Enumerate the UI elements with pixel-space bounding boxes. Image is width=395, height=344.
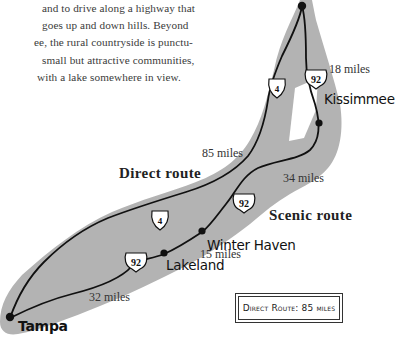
route-label-direct: Direct route — [119, 165, 201, 182]
winter-haven-dot — [198, 227, 205, 234]
lakeland-dot — [160, 249, 167, 256]
route-label-scenic: Scenic route — [269, 207, 352, 224]
distance-label-18: 18 miles — [329, 62, 370, 77]
svg-text:92: 92 — [239, 198, 249, 209]
svg-text:92: 92 — [311, 74, 321, 85]
distance-label-85: 85 miles — [202, 146, 243, 161]
orlando-dot — [298, 2, 306, 10]
direct-route-legend-box: Direct Route: 85 miles — [238, 296, 340, 320]
svg-text:92: 92 — [131, 257, 141, 268]
distance-label-34: 34 miles — [283, 171, 324, 186]
tampa-dot — [6, 313, 14, 321]
svg-text:4: 4 — [275, 84, 280, 94]
kissimmee-dot — [315, 119, 322, 126]
city-label-kissimmee: Kissimmee — [324, 91, 395, 107]
city-label-tampa: Tampa — [18, 318, 68, 334]
legend-text: Direct Route: 85 miles — [243, 303, 336, 313]
svg-text:4: 4 — [158, 216, 163, 226]
distance-label-32: 32 miles — [89, 290, 130, 305]
city-label-lakeland: Lakeland — [166, 257, 224, 273]
city-label-winter-haven: Winter Haven — [207, 237, 295, 253]
